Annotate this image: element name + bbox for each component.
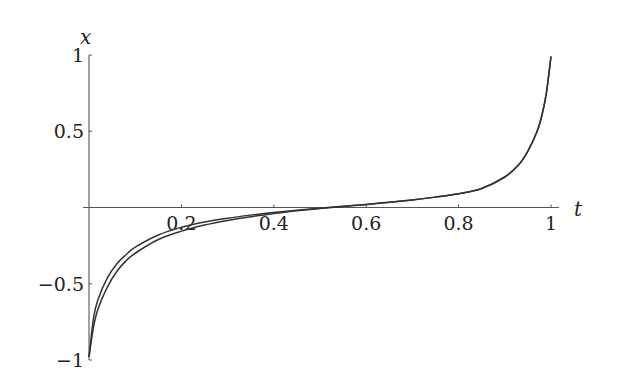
x-axis-label: t bbox=[574, 197, 583, 221]
chart: 0.20.40.60.8110.5−0.5−1 x t bbox=[0, 0, 625, 391]
y-axis-label: x bbox=[80, 25, 91, 49]
curve-curve-upper bbox=[89, 57, 551, 357]
plot-curves bbox=[89, 57, 551, 357]
curve-curve-lower bbox=[89, 57, 551, 357]
x-tick-label: 1 bbox=[545, 212, 557, 234]
x-tick-label: 0.8 bbox=[443, 212, 473, 234]
y-tick-label: 0.5 bbox=[54, 120, 84, 142]
y-tick-label: −0.5 bbox=[38, 273, 84, 295]
x-tick-label: 0.6 bbox=[351, 212, 381, 234]
y-tick-label: −1 bbox=[56, 349, 84, 371]
